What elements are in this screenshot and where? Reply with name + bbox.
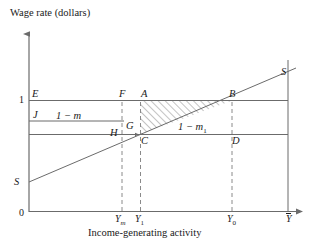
supply-line-S bbox=[29, 68, 296, 182]
annotation-one-minus-m1-base: 1 − m bbox=[178, 121, 203, 132]
point-label-J: J bbox=[33, 110, 38, 121]
point-label-F: F bbox=[119, 89, 125, 100]
annotation-one-minus-m1: 1 − m1 bbox=[178, 122, 207, 135]
x-tick-Ybar-base: Y bbox=[286, 213, 292, 224]
annotation-one-minus-m1-sub: 1 bbox=[203, 127, 207, 135]
point-label-E: E bbox=[32, 89, 38, 100]
x-tick-label-Ybar: Y bbox=[286, 213, 292, 224]
y-axis-title: Wage rate (dollars) bbox=[10, 8, 90, 19]
economics-diagram: Wage rate (dollars) Income-generating ac… bbox=[0, 0, 321, 250]
x-tick-Y0-sub: 0 bbox=[233, 219, 237, 227]
point-label-H: H bbox=[110, 128, 118, 139]
point-label-D: D bbox=[232, 136, 240, 147]
supply-label-right-S: S bbox=[281, 67, 286, 78]
origin-label: 0 bbox=[19, 208, 24, 218]
x-tick-label-Ym: Ym bbox=[115, 214, 126, 227]
x-tick-label-Y0: Y0 bbox=[227, 214, 236, 227]
point-label-G: G bbox=[126, 121, 134, 132]
x-tick-Y1-sub: 1 bbox=[141, 219, 145, 227]
x-axis-title: Income-generating activity bbox=[88, 228, 201, 239]
y-tick-one-label: 1 bbox=[19, 95, 24, 105]
point-label-B: B bbox=[229, 89, 235, 100]
x-tick-Ym-sub: m bbox=[121, 219, 126, 227]
diagram-canvas bbox=[0, 0, 321, 250]
point-label-C: C bbox=[141, 136, 148, 147]
point-label-A: A bbox=[141, 89, 147, 100]
supply-label-left-S: S bbox=[14, 177, 19, 188]
x-tick-label-Y1: Y1 bbox=[135, 214, 144, 227]
annotation-one-minus-m: 1 − m bbox=[56, 111, 81, 122]
